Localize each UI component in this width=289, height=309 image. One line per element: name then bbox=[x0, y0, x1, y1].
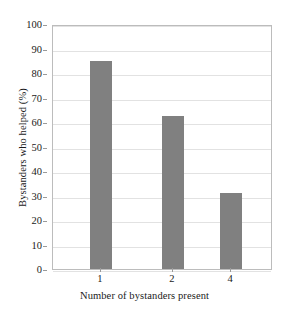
bar bbox=[220, 193, 242, 269]
bar bbox=[162, 116, 184, 269]
y-tick-mark bbox=[43, 246, 47, 247]
y-tick-mark bbox=[43, 221, 47, 222]
gridline bbox=[53, 100, 271, 101]
gridline bbox=[53, 51, 271, 52]
y-tick-label: 0 bbox=[0, 265, 42, 275]
x-axis-tick-labels: 124 bbox=[52, 272, 272, 288]
x-tick-label: 4 bbox=[210, 272, 250, 286]
y-tick-mark bbox=[43, 123, 47, 124]
x-axis-label: Number of bystanders present bbox=[0, 289, 289, 303]
x-tick-label: 2 bbox=[152, 272, 192, 286]
x-tick-mark bbox=[100, 268, 101, 272]
y-tick-mark bbox=[43, 99, 47, 100]
y-tick-mark bbox=[43, 197, 47, 198]
gridline bbox=[53, 26, 271, 27]
x-tick-mark bbox=[230, 268, 231, 272]
plot-area bbox=[52, 25, 272, 270]
y-tick-label: 10 bbox=[0, 241, 42, 251]
y-tick-label: 30 bbox=[0, 192, 42, 202]
x-tick-mark bbox=[172, 268, 173, 272]
bar-chart-figure: Bystanders who helped (%) 01020304050607… bbox=[0, 0, 289, 309]
gridline bbox=[53, 75, 271, 76]
y-tick-mark bbox=[43, 25, 47, 26]
y-tick-label: 50 bbox=[0, 143, 42, 153]
y-tick-mark bbox=[43, 148, 47, 149]
bar bbox=[90, 61, 112, 269]
y-tick-label: 70 bbox=[0, 94, 42, 104]
y-tick-mark bbox=[43, 50, 47, 51]
y-tick-label: 60 bbox=[0, 118, 42, 128]
y-tick-mark bbox=[43, 172, 47, 173]
y-axis-tick-labels: 0102030405060708090100 bbox=[0, 25, 47, 270]
y-tick-label: 80 bbox=[0, 69, 42, 79]
y-tick-label: 100 bbox=[0, 20, 42, 30]
y-tick-mark bbox=[43, 270, 47, 271]
x-tick-label: 1 bbox=[80, 272, 120, 286]
y-tick-mark bbox=[43, 74, 47, 75]
y-tick-label: 40 bbox=[0, 167, 42, 177]
y-tick-label: 20 bbox=[0, 216, 42, 226]
y-tick-label: 90 bbox=[0, 45, 42, 55]
